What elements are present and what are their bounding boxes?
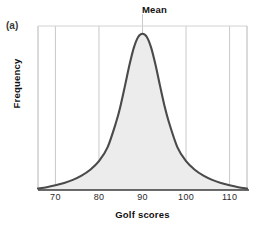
- x-tick-label-110: 110: [222, 192, 237, 202]
- y-axis-label: Frequency: [11, 49, 22, 119]
- figure-panel: (a) Mean 708090100110 Frequency Golf sco…: [0, 0, 263, 230]
- distribution-fill: [38, 34, 247, 190]
- x-axis-label: Golf scores: [0, 209, 263, 220]
- x-tick-label-90: 90: [137, 192, 148, 202]
- x-tick-label-100: 100: [178, 192, 194, 202]
- x-tick-labels: 708090100110: [0, 192, 263, 206]
- x-tick-label-70: 70: [50, 192, 61, 202]
- x-tick-label-80: 80: [94, 192, 105, 202]
